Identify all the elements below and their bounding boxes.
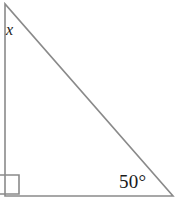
known-angle-label: 50° <box>119 172 146 191</box>
triangle-outline <box>5 4 173 196</box>
right-angle-square-icon <box>0 175 19 194</box>
right-triangle-figure <box>0 0 176 207</box>
unknown-angle-label: x <box>6 22 13 38</box>
figure-canvas: x 50° <box>0 0 176 207</box>
